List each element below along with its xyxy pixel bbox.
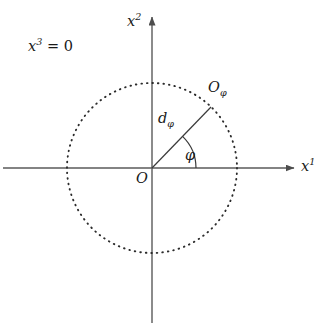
figure-canvas: x3 = 0 x2 x1 Oφ dφ φ O — [0, 0, 325, 323]
origin-label: O — [136, 171, 148, 186]
plane-condition-label: x3 = 0 — [28, 39, 73, 54]
axis-x1-label: x1 — [301, 159, 315, 174]
angle-phi-label: φ — [185, 148, 195, 163]
point-ophi-label: Oφ — [208, 80, 227, 95]
axis-x2-label: x2 — [127, 14, 141, 29]
radius-dphi-label: dφ — [158, 111, 174, 126]
